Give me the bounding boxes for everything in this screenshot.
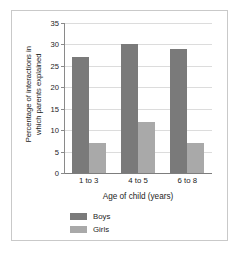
y-axis-tick-label: 15: [51, 104, 59, 113]
y-axis-title: Percentage of interactions in which pare…: [18, 15, 50, 173]
legend-swatch-boys: [70, 213, 87, 220]
x-axis-title: Age of child (years): [64, 192, 212, 201]
y-axis-ticks: [64, 23, 65, 173]
x-axis-category-label: 1 to 3: [79, 176, 99, 185]
bar-groups: [64, 23, 212, 173]
y-axis-tick: [61, 130, 65, 131]
legend-swatch-girls: [70, 226, 87, 233]
gridline: [64, 173, 212, 174]
y-axis-tick: [61, 23, 65, 24]
y-axis-tick: [61, 109, 65, 110]
bar-group: [121, 23, 155, 173]
chart-legend: BoysGirls: [70, 210, 110, 236]
y-axis-tick: [61, 87, 65, 88]
plot-area: 05101520253035: [64, 23, 212, 173]
legend-label-boys: Boys: [93, 212, 110, 221]
y-axis-tick-label: 10: [51, 126, 59, 135]
legend-item-girls: Girls: [70, 223, 110, 236]
legend-item-boys: Boys: [70, 210, 110, 223]
y-axis-tick-label: 35: [51, 19, 59, 28]
bar-girls-4-to-5: [138, 122, 155, 173]
legend-label-girls: Girls: [93, 225, 109, 234]
bar-group: [170, 23, 204, 173]
bar-girls-1-to-3: [89, 143, 106, 173]
y-axis-tick: [61, 44, 65, 45]
y-axis-tick: [61, 173, 65, 174]
bar-girls-6-to-8: [187, 143, 204, 173]
y-axis-tick-label: 20: [51, 83, 59, 92]
x-axis-category-label: 4 to 5: [128, 176, 148, 185]
y-axis-title-line-2: which parents explained: [34, 46, 44, 142]
x-axis-category-label: 6 to 8: [178, 176, 198, 185]
y-axis-tick-label: 25: [51, 61, 59, 70]
y-axis-tick: [61, 66, 65, 67]
bar-boys-1-to-3: [72, 57, 89, 173]
bar-boys-4-to-5: [121, 44, 138, 173]
chart-figure: Percentage of interactions in which pare…: [11, 10, 228, 241]
y-axis-tick: [61, 152, 65, 153]
y-axis-tick-label: 30: [51, 40, 59, 49]
bar-boys-6-to-8: [170, 49, 187, 173]
x-axis-category-labels: 1 to 34 to 56 to 8: [64, 176, 212, 185]
y-axis-tick-label: 0: [55, 169, 59, 178]
y-axis-title-line-1: Percentage of interactions in: [24, 46, 34, 142]
bar-group: [72, 23, 106, 173]
y-axis-tick-label: 5: [55, 147, 59, 156]
